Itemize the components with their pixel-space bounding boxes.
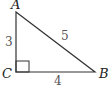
vertex-label-b: B bbox=[98, 66, 109, 81]
side-label-ab: 5 bbox=[61, 29, 69, 43]
right-angle-marker bbox=[16, 61, 29, 72]
triangle bbox=[16, 12, 95, 72]
vertex-label-c: C bbox=[2, 66, 12, 81]
vertex-label-a: A bbox=[10, 0, 20, 12]
side-label-ac: 3 bbox=[5, 35, 13, 49]
right-triangle-diagram: A C B 3 5 4 bbox=[0, 0, 111, 88]
side-label-cb: 4 bbox=[54, 74, 62, 88]
